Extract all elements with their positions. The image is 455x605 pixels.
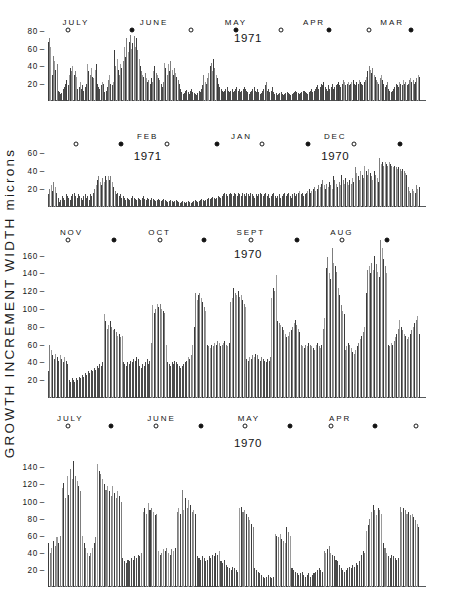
new-moon-icon <box>198 424 203 429</box>
month-label: APR <box>329 414 351 423</box>
year-label: 1970 <box>234 437 262 449</box>
y-tick-label: 120– <box>22 480 48 489</box>
y-tick-mark: – <box>40 548 45 557</box>
y-tick-value: 100 <box>22 497 37 506</box>
bar <box>418 527 419 587</box>
new-moon-icon <box>372 424 377 429</box>
y-tick-mark: – <box>40 565 45 574</box>
y-tick-value: 60 <box>28 531 38 540</box>
y-tick-label: 40– <box>28 548 48 557</box>
y-tick-mark: – <box>40 480 45 489</box>
month-label: JUNE <box>147 414 176 423</box>
plot-area: 20–40–60–80–100–120–140– <box>48 452 420 587</box>
full-moon-icon <box>243 424 248 429</box>
y-tick-mark: – <box>40 514 45 523</box>
y-tick-label: 60– <box>28 531 48 540</box>
y-tick-label: 140– <box>22 463 48 472</box>
y-tick-value: 140 <box>22 463 37 472</box>
y-tick-label: 20– <box>28 565 48 574</box>
growth-increment-figure: GROWTH INCREMENT WIDTH microns JULYJUNEM… <box>0 0 455 605</box>
y-tick-value: 80 <box>28 514 38 523</box>
full-moon-icon <box>414 424 419 429</box>
y-tick-value: 120 <box>22 480 37 489</box>
full-moon-icon <box>66 424 71 429</box>
y-tick-value: 40 <box>28 548 38 557</box>
y-tick-label: 80– <box>28 514 48 523</box>
y-tick-mark: – <box>40 531 45 540</box>
y-tick-value: 20 <box>28 565 38 574</box>
month-label: MAY <box>238 414 260 423</box>
new-moon-icon <box>287 424 292 429</box>
y-tick-mark: – <box>40 497 45 506</box>
y-tick-mark: – <box>40 463 45 472</box>
y-tick-label: 100– <box>22 497 48 506</box>
full-moon-icon <box>329 424 334 429</box>
panel-4: JULYJUNEMAYAPR197020–40–60–80–100–120–14… <box>0 0 455 605</box>
bar-series <box>48 452 420 587</box>
new-moon-icon <box>109 424 114 429</box>
full-moon-icon <box>153 424 158 429</box>
month-label: JULY <box>57 414 84 423</box>
